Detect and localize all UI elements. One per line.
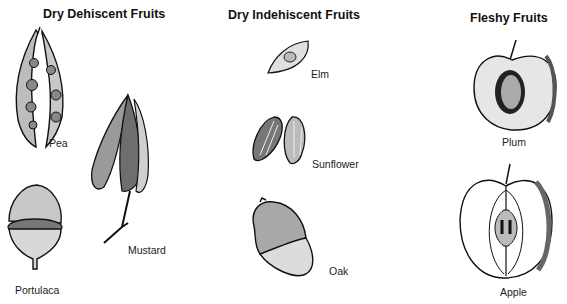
portulaca-capsule-illustration [3,183,65,273]
label-portulaca: Portulaca [15,284,59,296]
plum-drupe-illustration [472,40,556,132]
heading-dry-indehiscent: Dry Indehiscent Fruits [228,8,360,22]
label-mustard: Mustard [128,244,166,256]
label-oak: Oak [329,265,348,277]
pea-pod-illustration [8,25,78,155]
apple-pome-illustration [458,164,554,282]
label-sunflower: Sunflower [312,158,359,170]
label-apple: Apple [500,286,527,298]
label-pea: Pea [49,137,68,149]
label-plum: Plum [502,136,526,148]
heading-fleshy: Fleshy Fruits [470,11,548,25]
oak-acorn-illustration [250,196,320,281]
sunflower-achene-illustration [250,115,312,165]
mustard-silique-illustration [88,95,168,255]
label-elm: Elm [311,68,329,80]
heading-dry-dehiscent: Dry Dehiscent Fruits [43,7,165,21]
elm-samara-illustration [266,39,312,75]
